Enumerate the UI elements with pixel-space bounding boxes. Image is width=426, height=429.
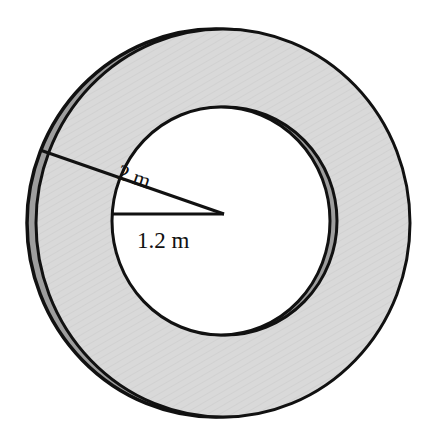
ring-diagram: 2 m 1.2 m <box>0 0 426 429</box>
inner-radius-label: 1.2 m <box>137 228 190 253</box>
ring-hole <box>112 107 330 335</box>
